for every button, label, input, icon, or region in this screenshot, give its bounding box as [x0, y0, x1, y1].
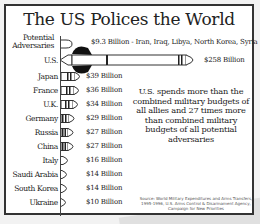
row-value: $27 Billion [86, 126, 122, 139]
row-label: Russia [35, 126, 58, 139]
bullet-icon [61, 114, 85, 123]
row-label: France [33, 84, 58, 97]
bullet-icon [61, 184, 77, 193]
row-value: $14 Billion [86, 182, 122, 195]
bar-row-italy: Italy $16 Billion [6, 154, 256, 167]
annotation-note: U.S. spends more than the combined milit… [130, 87, 252, 144]
row-label: Saudi Arabia [12, 168, 58, 181]
bullet-icon [61, 128, 85, 137]
bar-row-saudi-arabia: Saudi Arabia $14 Billion [6, 168, 256, 181]
bar-row-south-korea: South Korea $14 Billion [6, 182, 256, 195]
row-label: Ukraine [30, 196, 59, 209]
row-label: Germany [25, 112, 58, 125]
bullet-icon [61, 72, 85, 81]
bullet-icon [61, 198, 77, 207]
row-value: $29 Billion [86, 112, 122, 125]
source-citation: Source: World Military Expenditures and … [138, 196, 254, 211]
adversaries-label-line2: Adversaries [12, 42, 54, 50]
row-value: $39 Billion [86, 70, 122, 83]
row-value: $27 Billion [86, 140, 122, 153]
chart-title: The US Polices the World [6, 9, 252, 29]
row-value: $36 Billion [86, 84, 122, 97]
bar-row-us: U.S. $258 Billion [6, 54, 256, 67]
row-value: $34 Billion [86, 98, 122, 111]
chart-frame: The US Polices the World Potential Adver… [4, 4, 254, 215]
bullet-icon [61, 86, 85, 95]
bullet-icon [61, 142, 85, 151]
bar-row-japan: Japan $39 Billion [6, 70, 256, 83]
row-value: $14 Billion [86, 168, 122, 181]
row-value: $258 Billion [204, 54, 244, 67]
adversaries-label: Potential Adversaries [12, 34, 54, 50]
bullet-icon [61, 156, 77, 165]
row-value: $10 Billion [86, 196, 122, 209]
row-label: South Korea [14, 182, 58, 195]
bullet-icon [61, 170, 77, 179]
row-label: Japan [38, 70, 58, 83]
row-label: China [37, 140, 58, 153]
row-label: U.K. [43, 98, 58, 111]
row-value: $16 Billion [86, 154, 122, 167]
row-label: Italy [42, 154, 58, 167]
bullet-icon [61, 100, 85, 109]
